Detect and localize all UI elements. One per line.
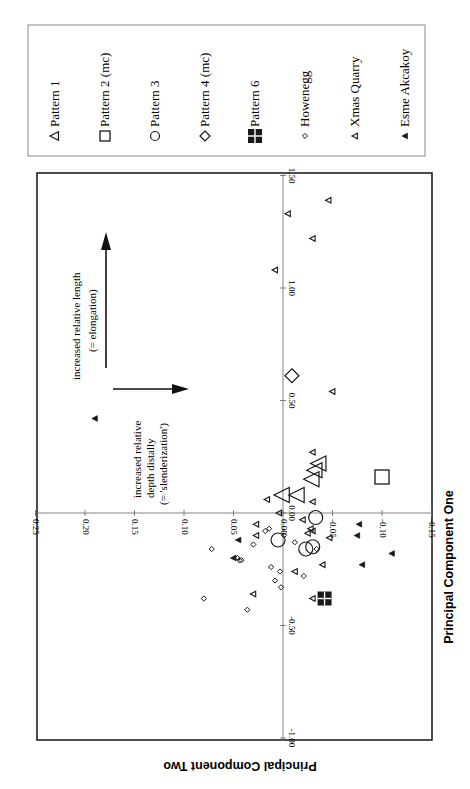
pc2-tick-label: -0.10 [378, 519, 388, 538]
legend-item: Xmas Quarry [347, 56, 362, 139]
annotation-depth-line3: (= 'slenderization') [157, 423, 170, 505]
small-filled-triangle-icon [356, 521, 361, 527]
small-open-triangle-icon [310, 596, 315, 602]
annotation-depth-line2: depth distally [144, 438, 156, 498]
small-open-triangle-icon [310, 449, 315, 455]
small-open-triangle-icon [310, 499, 315, 505]
pc2-tick-label: -0.05 [328, 519, 338, 538]
pc2-tick-label: 0.15 [130, 519, 140, 535]
axis-ticks: -1.00-0.500.000.501.001.50-0.15-0.10-0.0… [31, 168, 437, 748]
small-filled-triangle-icon [92, 416, 97, 422]
pc2-tick-label: 0.05 [229, 519, 239, 535]
legend-item: Pattern 6 [247, 80, 262, 143]
x-axis-title: Principal Component One [442, 490, 456, 644]
series-pattern-4-mc- [285, 369, 299, 383]
plot-frame [37, 173, 432, 740]
small-open-triangle-icon [272, 267, 277, 273]
pc2-tick-label: 0.10 [180, 519, 190, 535]
open-triangle-large-icon [289, 487, 304, 502]
legend-label: Pattern 1 [47, 80, 62, 127]
small-open-diamond-icon [277, 569, 282, 574]
annotation-depth-line1: increased relative [131, 421, 143, 498]
pc2-tick-label: -0.15 [427, 519, 437, 538]
small-open-triangle-icon [320, 562, 325, 568]
small-open-diamond-icon [272, 578, 277, 583]
small-open-triangle-icon [250, 591, 255, 597]
legend-label: Howenegg [297, 70, 312, 127]
small-open-triangle-icon [253, 533, 258, 539]
small-open-triangle-icon [327, 535, 332, 541]
small-open-triangle-icon [292, 569, 297, 575]
small-open-diamond-icon [292, 540, 297, 545]
filled-cross-square-icon [318, 592, 332, 606]
small-open-diamond-icon [301, 573, 306, 578]
small-open-diamond-icon [251, 542, 256, 547]
legend-frame [28, 25, 425, 156]
filled-cross-square-icon [248, 129, 262, 143]
small-filled-triangle-icon [235, 537, 240, 543]
elongation-annotation: increased relative length (= elongation) [70, 232, 111, 380]
slenderization-annotation: increased relative depth distally (= 'sl… [113, 384, 189, 505]
pc1-tick-label: 0.50 [287, 393, 297, 409]
pc1-tick-label: -1.00 [287, 729, 297, 748]
small-open-diamond-icon [269, 564, 274, 569]
small-open-triangle-icon [253, 521, 258, 527]
legend: Pattern 1Pattern 2 (mc)Pattern 3Pattern … [28, 25, 425, 156]
small-open-triangle-icon [264, 497, 269, 503]
small-filled-triangle-icon [354, 533, 359, 539]
series-pattern-2-mc- [375, 470, 389, 484]
pc1-tick-label: -0.50 [287, 616, 297, 635]
small-open-diamond-icon [209, 546, 214, 551]
legend-label: Pattern 2 (mc) [97, 53, 112, 127]
legend-label: Pattern 6 [247, 80, 262, 127]
small-open-triangle-icon [300, 517, 305, 523]
pc1-tick-label: 1.00 [287, 280, 297, 296]
small-open-diamond-icon [201, 596, 206, 601]
scatter-chart: Pattern 1Pattern 2 (mc)Pattern 3Pattern … [0, 0, 470, 789]
small-open-triangle-icon [310, 236, 315, 242]
open-square-large-icon [375, 470, 389, 484]
pc2-tick-label: 0.25 [31, 519, 41, 535]
data-points [92, 197, 394, 612]
small-filled-triangle-icon [231, 555, 236, 561]
arrowhead-icon [101, 232, 111, 250]
series-pattern-6 [318, 592, 332, 606]
small-open-diamond-icon [245, 607, 250, 612]
small-open-triangle-icon [330, 389, 335, 395]
open-diamond-large-icon [285, 369, 299, 383]
pc1-tick-label: 1.50 [287, 168, 297, 184]
pc2-tick-label: 0.20 [81, 519, 91, 535]
legend-item: Esme Akcakoy [397, 48, 412, 139]
legend-item: Pattern 2 (mc) [97, 53, 112, 141]
open-triangle-large-icon [274, 487, 289, 502]
annotation-length-line1: increased relative length [70, 272, 82, 380]
legend-label: Pattern 3 [147, 80, 162, 127]
small-open-triangle-icon [285, 211, 290, 217]
small-filled-triangle-icon [359, 562, 364, 568]
legend-label: Pattern 4 (mc) [197, 53, 212, 127]
small-open-triangle-icon [326, 197, 331, 203]
arrowhead-icon [172, 384, 189, 394]
series-howenegg [201, 526, 319, 612]
legend-label: Xmas Quarry [347, 56, 362, 127]
open-triangle-large-icon [311, 456, 326, 471]
legend-item: Pattern 4 (mc) [197, 53, 212, 141]
y-axis-title: Principal Component Two [163, 759, 317, 773]
small-filled-triangle-icon [389, 551, 394, 557]
series-pattern-1 [274, 456, 326, 503]
open-triangle-large-icon [304, 472, 319, 487]
annotation-length-line2: (= elongation) [86, 289, 99, 352]
legend-label: Esme Akcakoy [397, 48, 412, 127]
